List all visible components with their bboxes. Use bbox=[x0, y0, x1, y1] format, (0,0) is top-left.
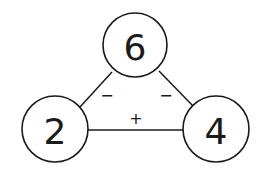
operator-top-right: − bbox=[159, 86, 172, 105]
node-top-value: 6 bbox=[124, 27, 147, 68]
node-right: 4 bbox=[183, 96, 249, 162]
number-triangle-diagram: − − + 6 2 4 bbox=[0, 0, 264, 177]
node-left: 2 bbox=[22, 96, 88, 162]
node-right-value: 4 bbox=[205, 111, 228, 152]
node-top: 6 bbox=[103, 13, 167, 77]
operator-top-left: − bbox=[100, 86, 113, 105]
operator-left-right: + bbox=[129, 109, 142, 128]
node-left-value: 2 bbox=[44, 111, 67, 152]
